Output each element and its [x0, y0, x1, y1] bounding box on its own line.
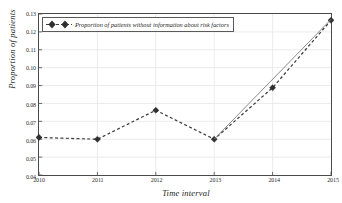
y-axis-title: Proportion of patients [7, 0, 17, 109]
series-line-0 [39, 20, 331, 139]
x-tick-label: 2011 [92, 177, 103, 183]
y-tick-label: 0.10 [26, 65, 36, 71]
x-tick-label: 2010 [33, 177, 45, 183]
y-tick-label: 0.13 [26, 11, 36, 17]
data-point-marker [94, 136, 100, 142]
diamond-marker-icon [46, 20, 72, 29]
x-tick-label: 2013 [210, 177, 222, 183]
data-point-marker [153, 107, 159, 113]
series-line-1 [214, 19, 331, 139]
x-tick-label: 2015 [327, 177, 339, 183]
y-tick-label: 0.08 [26, 102, 36, 108]
legend-label: Proportion of patients without informati… [75, 21, 229, 28]
y-tick-label: 0.12 [26, 29, 36, 35]
data-point-marker [328, 17, 334, 23]
y-tick-label: 0.07 [26, 120, 36, 126]
y-tick-label: 0.05 [26, 156, 36, 162]
y-tick-label: 0.06 [26, 138, 36, 144]
chart-figure: Proportion of patients Time interval 0.0… [0, 0, 342, 203]
plot-area: 0.040.050.060.070.080.090.100.110.120.13… [38, 13, 332, 176]
y-tick-label: 0.09 [26, 83, 36, 89]
data-point-marker [36, 134, 42, 140]
y-tick-label: 0.11 [26, 47, 36, 53]
chart-legend: Proportion of patients without informati… [42, 17, 234, 32]
data-series-layer [39, 14, 331, 175]
x-tick-label: 2012 [151, 177, 163, 183]
x-tick-label: 2014 [268, 177, 280, 183]
x-axis-title: Time interval [38, 188, 334, 198]
